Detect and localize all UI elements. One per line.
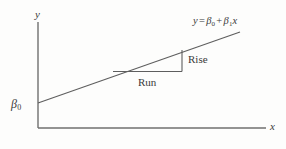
regression-line-diagram: y x β0 y=β0+β1x Rise Run bbox=[0, 0, 286, 149]
equation-plus: + bbox=[216, 15, 222, 26]
equation-equals: = bbox=[199, 15, 205, 26]
equation-label: y=β0+β1x bbox=[193, 16, 237, 28]
equation-x-variable: x bbox=[232, 15, 237, 26]
rise-label: Rise bbox=[188, 54, 208, 65]
equation-lhs: y bbox=[193, 15, 198, 26]
diagram-canvas bbox=[0, 0, 286, 149]
y-axis-label: y bbox=[35, 9, 40, 20]
regression-line bbox=[38, 32, 240, 103]
run-label: Run bbox=[138, 77, 156, 88]
x-axis-label: x bbox=[270, 121, 275, 132]
intercept-label: β0 bbox=[11, 98, 21, 112]
intercept-subscript: 0 bbox=[17, 103, 21, 112]
equation-beta0-subscript: 0 bbox=[212, 20, 216, 28]
